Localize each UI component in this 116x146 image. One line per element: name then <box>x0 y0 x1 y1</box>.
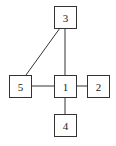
node-5: 5 <box>10 76 32 98</box>
node-5-label: 5 <box>18 81 24 93</box>
node-4: 4 <box>55 115 77 137</box>
node-3-label: 3 <box>63 12 69 24</box>
node-2-label: 2 <box>96 81 102 93</box>
edge-3-5 <box>26 28 60 75</box>
graph-diagram: 3 5 1 2 4 <box>0 0 116 146</box>
node-1-label: 1 <box>63 81 69 93</box>
node-4-label: 4 <box>63 120 69 132</box>
node-3: 3 <box>55 7 77 29</box>
node-1: 1 <box>55 76 77 98</box>
node-2: 2 <box>88 76 110 98</box>
nodes: 3 5 1 2 4 <box>10 7 110 137</box>
edges <box>26 28 87 114</box>
